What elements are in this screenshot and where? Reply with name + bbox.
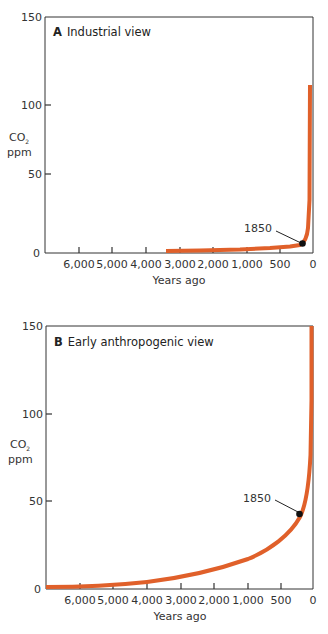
svg-text:1850: 1850 [243,492,271,505]
chart-panel-a: 150 100 50 0 CO2 ppm 6,000 5,000 4,000 3… [0,0,328,300]
svg-text:0: 0 [310,258,317,271]
chart-a-title: AIndustrial view [53,25,151,39]
svg-text:2,000: 2,000 [198,594,230,607]
y-axis-ticks [45,105,51,174]
svg-text:2,000: 2,000 [197,258,229,271]
svg-text:3,000: 3,000 [164,258,196,271]
x-axis-label: Years ago [152,274,206,287]
svg-text:5,000: 5,000 [97,594,129,607]
ytick-50: 50 [28,168,42,181]
chart-a-svg: 150 100 50 0 CO2 ppm 6,000 5,000 4,000 3… [0,0,328,300]
ytick-100: 100 [21,99,42,112]
x-axis-tick-labels: 6,000 5,000 4,000 3,000 2,000 1,000 500 … [64,594,316,607]
svg-text:5,000: 5,000 [96,258,128,271]
svg-text:ppm: ppm [8,453,33,466]
y-axis-label: CO2 ppm [7,131,32,159]
x-axis-tick-labels: 6,000 5,000 4,000 3,000 2,000 1,000 500 … [63,258,316,271]
ytick-150: 150 [21,11,42,24]
svg-text:4,000: 4,000 [131,594,163,607]
ytick-0: 0 [33,247,40,260]
svg-text:ppm: ppm [7,146,32,159]
svg-text:0: 0 [310,594,317,607]
svg-text:500: 500 [270,258,291,271]
co2-curve-a [166,85,310,251]
annotation-1850-a: 1850 [244,222,306,247]
svg-text:0: 0 [34,583,41,596]
svg-text:4,000: 4,000 [130,258,162,271]
svg-text:6,000: 6,000 [63,258,95,271]
chart-b-title: BEarly anthropogenic view [54,335,214,349]
marker-1850-a [299,240,306,247]
x-axis-label: Years ago [153,610,207,623]
svg-text:3,000: 3,000 [165,594,197,607]
svg-text:150: 150 [22,320,43,333]
svg-text:CO2: CO2 [10,438,30,452]
y-axis-label: CO2 ppm [8,438,33,466]
plot-frame [46,326,313,589]
svg-text:50: 50 [29,495,43,508]
plot-frame [45,17,313,253]
svg-text:100: 100 [22,408,43,421]
svg-text:500: 500 [271,594,292,607]
svg-text:CO2: CO2 [9,131,29,145]
chart-b-svg: 150 100 50 0 CO2 ppm 6,000 5,000 4,000 3… [0,300,328,634]
marker-1850-b [296,511,303,518]
svg-text:1,000: 1,000 [232,594,264,607]
svg-text:1850: 1850 [244,222,272,235]
svg-text:6,000: 6,000 [64,594,96,607]
co2-curve-b [46,326,312,587]
annotation-1850-b: 1850 [243,492,303,517]
svg-text:1,000: 1,000 [231,258,263,271]
y-axis-ticks [46,414,52,501]
chart-panel-b: 150 100 50 0 CO2 ppm 6,000 5,000 4,000 3… [0,300,328,634]
